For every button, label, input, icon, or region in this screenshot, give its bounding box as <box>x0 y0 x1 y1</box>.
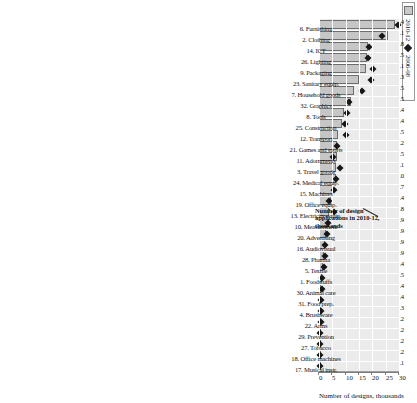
category-label: 32. Graphics <box>213 96 318 107</box>
category-label: 31. Food prep. <box>213 295 318 306</box>
category-label: 20. Advertising <box>213 229 318 240</box>
category-label: 5. Textile <box>213 262 318 273</box>
category-label: 23. Sanitary equip. <box>213 74 318 85</box>
category-axis-labels: 6. Furnishing2. Clothing14. ICT26. Light… <box>213 19 318 372</box>
bar-2010-12[interactable] <box>319 42 368 51</box>
category-label: 14. ICT <box>213 41 318 52</box>
gridline-vertical <box>319 52 399 53</box>
axis-tick-label: 20 <box>372 374 379 381</box>
gridline-vertical <box>319 262 399 263</box>
gridline-vertical <box>319 41 399 42</box>
category-label: 16. Audiovisual <box>213 240 318 251</box>
category-label: 29. Prevention <box>213 328 318 339</box>
category-label: 11. Adornments <box>213 151 318 162</box>
chart-annotation: Number of design applications in 2010-12… <box>315 207 391 229</box>
axis-tick-label: 0 <box>319 374 322 381</box>
bar-value-labels: 5.43.14.83.55.13.33.52.53.42.43.52.21.52… <box>399 19 417 372</box>
category-label: 12. Transport <box>213 129 318 140</box>
category-label: 28. Pharma <box>213 251 318 262</box>
category-label: 13. Electricity equip. <box>213 207 318 218</box>
category-label: 22. Arms <box>213 317 318 328</box>
category-label: 24. Medical equip. <box>213 173 318 184</box>
axis-tick-label: 15 <box>359 374 366 381</box>
category-label: 2. Clothing <box>213 30 318 41</box>
category-label: 21. Games and sports <box>213 140 318 151</box>
axis-tick-label: 30 <box>399 374 406 381</box>
category-label: 4. Brushware <box>213 306 318 317</box>
design-applications-chart-figure: 2010-12 2006-08 5.43.14.83.55.13.33.52.5… <box>0 0 417 201</box>
category-label: 19. Office equip. <box>213 196 318 207</box>
axis-tick-label: 10 <box>346 374 353 381</box>
category-label: 26. Lighting <box>213 52 318 63</box>
legend-bar-swatch-icon <box>404 6 413 15</box>
category-label: 17. Musical instr. <box>213 361 318 372</box>
category-label: 1. Foodstuffs <box>213 273 318 284</box>
axis-tick-label: 25 <box>386 374 393 381</box>
bar-value-label: 0.1 <box>399 361 417 372</box>
category-label: 7. Household goods <box>213 85 318 96</box>
category-label: 9. Packaging <box>213 63 318 74</box>
category-label: 15. Machines <box>213 184 318 195</box>
marker-2006-08[interactable] <box>337 164 344 171</box>
category-label: 3. Travel goods <box>213 162 318 173</box>
gridline-vertical <box>319 273 399 274</box>
gridline-horizontal <box>399 19 400 371</box>
category-label: 25. Construction <box>213 118 318 129</box>
category-label: 8. Tools <box>213 107 318 118</box>
axis-tick-label: 5 <box>332 374 335 381</box>
gridline-vertical <box>319 118 399 119</box>
chart-rotated-canvas: 2010-12 2006-08 5.43.14.83.55.13.33.52.5… <box>0 0 417 201</box>
value-axis-title: Number of designs, thousands <box>319 392 399 400</box>
category-label: 18. Office machines <box>213 350 318 361</box>
category-label: 30. Animal care <box>213 284 318 295</box>
gridline-vertical <box>319 328 399 329</box>
category-label: 10. Measurement <box>213 218 318 229</box>
category-label: 6. Furnishing <box>213 19 318 30</box>
marker-2006-08[interactable] <box>343 109 350 116</box>
category-label: 27. Tobacco <box>213 339 318 350</box>
